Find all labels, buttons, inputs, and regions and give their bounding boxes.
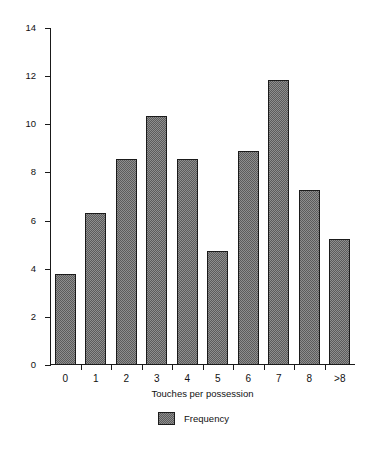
y-tick-label-14: 14	[25, 21, 36, 34]
bar-0	[55, 274, 76, 365]
bar-8	[299, 190, 320, 365]
bar-5	[207, 251, 228, 365]
x-tick-4	[203, 364, 204, 370]
x-tick-8	[325, 364, 326, 370]
bar-2	[116, 159, 137, 365]
bar-6	[238, 151, 259, 365]
x-tick-1	[111, 364, 112, 370]
y-tick-8: 8	[45, 172, 51, 173]
x-tick-3	[172, 364, 173, 370]
bar-1	[85, 213, 106, 365]
y-tick-0: 0	[45, 365, 51, 366]
x-tick-label->8: >8	[320, 372, 360, 385]
y-tick-10: 10	[45, 124, 51, 125]
bar->8	[329, 239, 350, 365]
y-tick-label-0: 0	[31, 358, 36, 371]
x-tick-2	[142, 364, 143, 370]
y-axis-line	[50, 28, 51, 365]
legend-swatch-frequency	[158, 412, 175, 425]
x-tick-7	[294, 364, 295, 370]
y-tick-14: 14	[45, 28, 51, 29]
x-tick-5	[233, 364, 234, 370]
y-tick-6: 6	[45, 221, 51, 222]
x-tick-0	[81, 364, 82, 370]
y-tick-label-10: 10	[25, 117, 36, 130]
y-tick-12: 12	[45, 76, 51, 77]
y-tick-2: 2	[45, 317, 51, 318]
y-tick-label-4: 4	[31, 262, 36, 275]
bar-4	[177, 159, 198, 365]
y-tick-label-12: 12	[25, 69, 36, 82]
x-tick-6	[264, 364, 265, 370]
x-axis-title: Touches per possession	[50, 388, 355, 399]
y-tick-label-2: 2	[31, 310, 36, 323]
bar-7	[268, 80, 289, 365]
legend-label-frequency: Frequency	[184, 413, 229, 424]
legend: Frequency	[0, 412, 387, 425]
y-tick-label-6: 6	[31, 214, 36, 227]
y-tick-label-8: 8	[31, 165, 36, 178]
plot-area: 02468101214 012345678>8	[50, 28, 355, 365]
bar-3	[146, 116, 167, 365]
y-tick-4: 4	[45, 269, 51, 270]
bar-chart-figure: Goals per 1000 possessions 02468101214 0…	[0, 0, 387, 449]
